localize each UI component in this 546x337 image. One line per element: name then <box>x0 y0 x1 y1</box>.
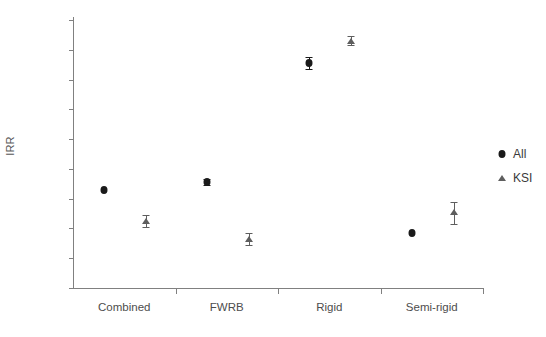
irr-scatter-chart: IRR 00.10.20.30.40.50.60.70.80.9 Combine… <box>0 0 546 337</box>
data-point-ksi-rigid <box>347 38 355 44</box>
error-bar-cap <box>143 227 150 228</box>
data-point-all-fwrb <box>203 178 210 186</box>
x-tick-mark <box>381 289 382 294</box>
y-axis-title: IRR <box>4 126 24 166</box>
plot-area <box>73 20 483 288</box>
data-point-ksi-combined <box>142 218 150 224</box>
x-tick-label-semi-rigid: Semi-rigid <box>406 301 458 313</box>
error-bar-cap <box>450 202 457 203</box>
y-tick-mark <box>69 288 73 289</box>
x-tick-label-rigid: Rigid <box>316 301 342 313</box>
error-bar-cap <box>450 224 457 225</box>
x-tick-label-fwrb: FWRB <box>210 301 244 313</box>
data-point-all-semi-rigid <box>408 229 415 237</box>
x-tick-mark <box>176 289 177 294</box>
x-tick-mark <box>483 289 484 294</box>
chart-legend: All KSI <box>497 142 545 190</box>
legend-label-all: All <box>513 147 526 161</box>
data-point-ksi-semi-rigid <box>450 209 458 215</box>
triangle-marker-icon <box>497 172 511 184</box>
error-bar-cap <box>306 57 313 58</box>
x-tick-label-combined: Combined <box>98 301 150 313</box>
data-point-all-rigid <box>306 59 313 67</box>
data-point-ksi-fwrb <box>245 236 253 242</box>
legend-item-all: All <box>497 142 545 166</box>
error-bar-cap <box>306 69 313 70</box>
x-tick-mark <box>278 289 279 294</box>
error-bar-cap <box>143 215 150 216</box>
legend-label-ksi: KSI <box>513 171 532 185</box>
error-bar-cap <box>245 233 252 234</box>
legend-item-ksi: KSI <box>497 166 545 190</box>
error-bar-cap <box>348 45 355 46</box>
data-point-all-combined <box>101 186 108 194</box>
error-bar-cap <box>245 245 252 246</box>
circle-marker-icon <box>497 148 511 160</box>
